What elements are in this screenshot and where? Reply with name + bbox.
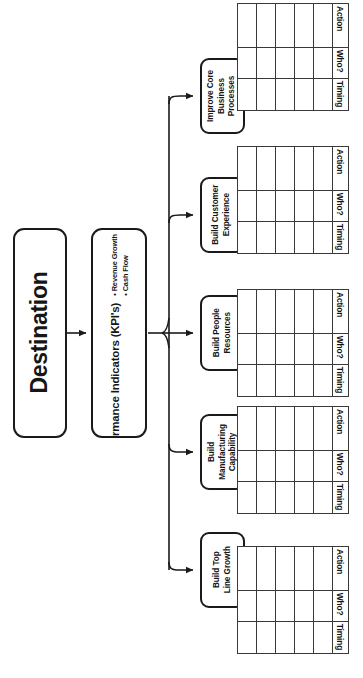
action-table-cell-action[interactable] [295,147,314,191]
action-table-cell-timing[interactable] [314,481,333,513]
action-table-header-row: ActionWho?Timing [333,547,349,654]
action-table-cell-who[interactable] [257,47,276,78]
action-table-cell-action[interactable] [257,407,276,451]
action-table-cell-action[interactable] [238,147,257,191]
action-table-cell-who[interactable] [295,590,314,621]
action-table-cell-who[interactable] [238,333,257,364]
action-table-cell-action[interactable] [238,407,257,451]
action-table-cell-timing[interactable] [276,481,295,513]
pillar-label-build-manufacturing-capability: Build Manufacturing Capability [207,424,239,480]
action-table-cell-who[interactable] [238,450,257,481]
action-table-cell-who[interactable] [276,190,295,221]
action-table-cell-timing[interactable] [314,78,333,110]
action-table-cell-timing[interactable] [276,621,295,653]
connector-branch-5 [169,562,193,570]
action-table-cell-who[interactable] [238,590,257,621]
action-table-cell-action[interactable] [238,547,257,591]
action-table-cell-action[interactable] [257,547,276,591]
action-table-cell-action[interactable] [276,290,295,334]
action-table-cell-action[interactable] [295,4,314,48]
action-table-cell-timing[interactable] [257,364,276,396]
action-table-cell-who[interactable] [276,47,295,78]
action-table-cell-who[interactable] [295,190,314,221]
action-table-cell-timing[interactable] [276,221,295,253]
action-table-build-manufacturing-capability[interactable]: ActionWho?Timing [237,406,349,514]
action-table-cell-who[interactable] [314,333,333,364]
action-table-improve-core-business-processes[interactable]: ActionWho?Timing [237,3,349,111]
action-table-cell-who[interactable] [314,450,333,481]
action-table-cell-action[interactable] [314,147,333,191]
action-table-cell-who[interactable] [276,590,295,621]
action-table-cell-timing[interactable] [276,78,295,110]
action-table-cell-timing[interactable] [276,364,295,396]
action-table-cell-who[interactable] [238,190,257,221]
action-table-header-row: ActionWho?Timing [333,147,349,254]
action-table-cell-action[interactable] [314,407,333,451]
action-table-build-people-resources[interactable]: ActionWho?Timing [237,289,349,397]
action-table-cell-action[interactable] [314,290,333,334]
action-table-cell-action[interactable] [257,290,276,334]
action-table-cell-action[interactable] [276,407,295,451]
action-table-cell-timing[interactable] [257,481,276,513]
pillar-label-build-people-resources: Build People Resources [212,309,233,358]
action-table-cell-timing[interactable] [295,481,314,513]
action-table-build-top-line-growth[interactable]: ActionWho?Timing [237,546,349,654]
action-table-row [314,407,333,514]
action-table-cell-timing[interactable] [257,621,276,653]
action-table-cell-timing[interactable] [314,621,333,653]
action-table-cell-timing[interactable] [295,364,314,396]
action-table-row [238,290,257,397]
action-table-cell-who[interactable] [295,47,314,78]
action-table-cell-timing[interactable] [257,78,276,110]
action-table-cell-timing[interactable] [295,221,314,253]
action-table-header-who: Who? [333,47,349,78]
action-table-cell-action[interactable] [238,290,257,334]
action-table-cell-action[interactable] [314,4,333,48]
destination-node[interactable]: Destination [13,228,67,438]
pillar-line: Capability [228,433,237,472]
action-table-cell-who[interactable] [314,190,333,221]
action-table-cell-action[interactable] [257,4,276,48]
action-table-cell-who[interactable] [295,333,314,364]
action-table-header-action: Action [333,147,349,191]
action-table-cell-action[interactable] [276,547,295,591]
action-table-cell-action[interactable] [295,290,314,334]
action-table-cell-action[interactable] [295,547,314,591]
action-table-cell-timing[interactable] [238,221,257,253]
action-table-cell-action[interactable] [238,4,257,48]
action-table-cell-timing[interactable] [295,621,314,653]
action-table-row [257,4,276,111]
action-table-cell-who[interactable] [314,590,333,621]
action-table-cell-timing[interactable] [238,364,257,396]
action-table-cell-timing[interactable] [295,78,314,110]
action-table-cell-timing[interactable] [257,221,276,253]
action-table-cell-who[interactable] [257,190,276,221]
action-table-cell-timing[interactable] [314,221,333,253]
pillar-line: Build Top [212,552,221,589]
action-table-cell-who[interactable] [257,590,276,621]
action-table-cell-who[interactable] [295,450,314,481]
kpi-node[interactable]: Key Performance Indicators (KPI's) • Rev… [91,228,147,438]
action-table-cell-action[interactable] [295,407,314,451]
action-table-cell-action[interactable] [276,4,295,48]
action-table-header-row: ActionWho?Timing [333,290,349,397]
action-table-header-who: Who? [333,590,349,621]
action-table-cell-who[interactable] [257,333,276,364]
action-table-cell-who[interactable] [314,47,333,78]
connector-branch-2 [169,215,193,223]
action-table-cell-timing[interactable] [314,364,333,396]
action-table-build-customer-experience[interactable]: ActionWho?Timing [237,146,349,254]
action-table-cell-who[interactable] [257,450,276,481]
action-table-cell-action[interactable] [257,147,276,191]
connector-branch-4 [169,444,193,452]
action-table-cell-who[interactable] [276,333,295,364]
action-table-cell-who[interactable] [276,450,295,481]
action-table-cell-timing[interactable] [238,621,257,653]
action-table-cell-timing[interactable] [238,481,257,513]
action-table-cell-action[interactable] [314,547,333,591]
action-table-cell-timing[interactable] [238,78,257,110]
action-table-header-timing: Timing [333,481,349,513]
action-table-row [238,147,257,254]
action-table-cell-who[interactable] [238,47,257,78]
action-table-cell-action[interactable] [276,147,295,191]
